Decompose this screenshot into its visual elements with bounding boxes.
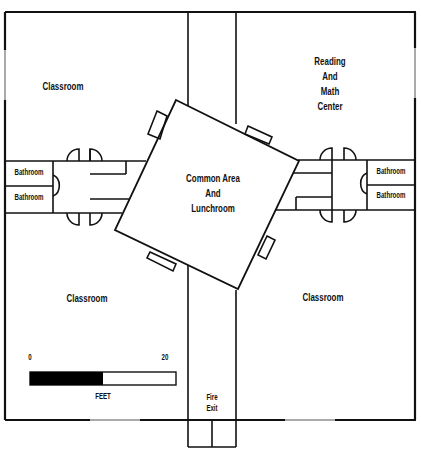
bathroom-right-1-label: Bathroom: [373, 166, 409, 177]
fire-exit-line1: Fire: [196, 392, 228, 403]
scale-end-label: 20: [158, 352, 172, 363]
left-wing-walls: [5, 149, 146, 225]
bathroom-left-1-label: Bathroom: [11, 167, 47, 178]
central-corridor: [188, 12, 236, 447]
common-label-line2: And: [181, 186, 246, 201]
reading-math-center-label: Reading And Math Center: [305, 54, 355, 113]
classroom-bottom-left-label: Classroom: [62, 291, 112, 306]
bathroom-left-2-label: Bathroom: [11, 192, 47, 203]
common-label-line3: Lunchroom: [181, 201, 246, 216]
scale-bar: [30, 372, 176, 385]
fire-exit-line2: Exit: [196, 403, 228, 414]
reading-label-line3: Math: [305, 84, 355, 99]
classroom-top-left-label: Classroom: [38, 79, 88, 94]
bathroom-right-2-label: Bathroom: [373, 190, 409, 201]
fire-exit-label: Fire Exit: [196, 392, 228, 415]
common-label-line1: Common Area: [181, 171, 246, 186]
reading-label-line4: Center: [305, 99, 355, 114]
reading-label-line2: And: [305, 69, 355, 84]
floor-plan: [0, 0, 421, 450]
common-area-label: Common Area And Lunchroom: [181, 171, 246, 216]
scale-start-label: 0: [24, 352, 36, 363]
reading-label-line1: Reading: [305, 54, 355, 69]
scale-unit-label: FEET: [89, 391, 118, 402]
classroom-bottom-right-label: Classroom: [298, 290, 348, 305]
